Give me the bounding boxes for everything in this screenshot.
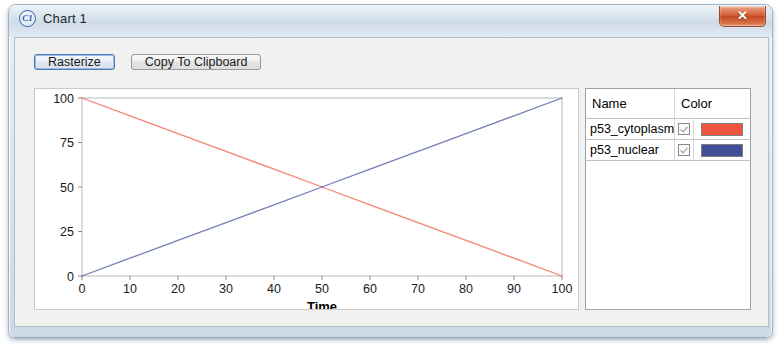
x-tick-label: 80 <box>459 282 473 296</box>
column-header-name: Name <box>586 89 675 118</box>
series-name-cell: p53_cytoplasm <box>586 119 675 139</box>
x-tick-label: 90 <box>507 282 521 296</box>
series-visible-checkbox-cell[interactable] <box>675 119 694 139</box>
y-tick-label: 75 <box>60 136 74 150</box>
series-visible-checkbox-cell[interactable] <box>675 140 694 160</box>
series-color-cell[interactable] <box>694 140 750 160</box>
x-tick-label: 30 <box>219 282 233 296</box>
x-tick-label: 70 <box>411 282 425 296</box>
color-swatch[interactable] <box>701 144 743 157</box>
copy-to-clipboard-button[interactable]: Copy To Clipboard <box>131 54 262 70</box>
x-tick-label: 40 <box>267 282 281 296</box>
window-title: Chart 1 <box>43 11 87 26</box>
x-tick-label: 20 <box>171 282 185 296</box>
chart-window: C1 Chart 1 ✕ Rasterize Copy To Clipboard… <box>8 4 773 338</box>
x-tick-label: 100 <box>552 282 573 296</box>
x-tick-label: 0 <box>79 282 86 296</box>
x-tick-label: 10 <box>123 282 137 296</box>
rasterize-button[interactable]: Rasterize <box>34 54 115 70</box>
copy-button-wrap: Copy To Clipboard <box>131 52 262 73</box>
chart-panel[interactable]: 02550751000102030405060708090100Time <box>34 88 579 310</box>
toolbar: Rasterize Copy To Clipboard <box>34 52 261 73</box>
close-icon: ✕ <box>720 6 765 26</box>
series-legend-grid[interactable]: Name Color p53_cytoplasmp53_nuclear <box>585 88 751 310</box>
checkbox-icon[interactable] <box>678 123 690 135</box>
grid-body: p53_cytoplasmp53_nuclear <box>586 119 750 161</box>
table-row[interactable]: p53_nuclear <box>586 140 750 161</box>
y-tick-label: 50 <box>60 181 74 195</box>
column-header-color: Color <box>675 89 750 118</box>
close-button[interactable]: ✕ <box>719 6 766 27</box>
y-tick-label: 25 <box>60 225 74 239</box>
y-tick-label: 100 <box>53 92 74 106</box>
series-color-cell[interactable] <box>694 119 750 139</box>
x-axis-title: Time <box>307 299 337 309</box>
c1-logo-icon: C1 <box>19 10 36 27</box>
y-tick-label: 0 <box>67 270 74 284</box>
rasterize-button-wrap: Rasterize <box>34 52 115 73</box>
color-swatch[interactable] <box>701 123 743 136</box>
titlebar-content: C1 Chart 1 <box>19 10 87 27</box>
x-tick-label: 60 <box>363 282 377 296</box>
checkbox-icon[interactable] <box>678 144 690 156</box>
table-row[interactable]: p53_cytoplasm <box>586 119 750 140</box>
x-tick-label: 50 <box>315 282 329 296</box>
line-chart: 02550751000102030405060708090100Time <box>35 89 578 309</box>
grid-header-row: Name Color <box>586 89 750 119</box>
window-titlebar[interactable]: C1 Chart 1 ✕ <box>9 5 772 37</box>
client-area: Rasterize Copy To Clipboard 025507510001… <box>14 37 769 327</box>
window-shadow <box>14 336 767 341</box>
series-name-cell: p53_nuclear <box>586 140 675 160</box>
